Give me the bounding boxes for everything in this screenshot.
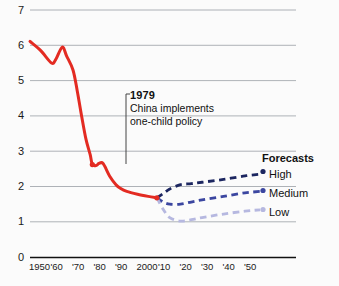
legend-label-medium: Medium [269, 187, 308, 199]
series-line-low [157, 198, 260, 221]
x-tick-2000: 2000 [137, 262, 158, 272]
legend-swatches [260, 169, 265, 212]
series-line-medium [157, 191, 260, 204]
legend-title: Forecasts [262, 152, 314, 164]
x-tick-10: '10 [158, 262, 170, 272]
y-tick-6: 6 [10, 40, 24, 51]
x-tick-20: '20 [180, 262, 192, 272]
legend-label-high: High [269, 168, 292, 180]
y-tick-2: 2 [10, 181, 24, 192]
chart-canvas [0, 0, 339, 286]
1979-marker [90, 162, 95, 167]
x-tick-40: '40 [223, 262, 235, 272]
x-tick-30: '30 [201, 262, 213, 272]
y-tick-4: 4 [10, 110, 24, 121]
x-tick-60: '60 [51, 262, 63, 272]
legend-label-low: Low [269, 206, 289, 218]
x-tick-70: '70 [72, 262, 84, 272]
y-tick-1: 1 [10, 216, 24, 227]
y-tick-7: 7 [10, 5, 24, 16]
data-series-group [30, 41, 260, 221]
annotation-line-1: China implements [130, 102, 214, 115]
x-tick-90: '90 [115, 262, 127, 272]
x-tick-1950: 1950 [29, 262, 50, 272]
fertility-rate-chart: 76543210 1950'60'70'80'902000'10'20'30'4… [0, 0, 339, 286]
y-tick-3: 3 [10, 146, 24, 157]
legend-dot-high [260, 169, 265, 174]
2009-marker [154, 195, 159, 200]
annotation-line-2: one-child policy [130, 115, 214, 128]
x-tick-50: '50 [244, 262, 256, 272]
annotation-one-child-policy: 1979 China implements one-child policy [130, 89, 214, 128]
legend-dot-low [260, 207, 265, 212]
y-tick-5: 5 [10, 75, 24, 86]
y-tick-0: 0 [10, 252, 24, 263]
legend-dot-medium [260, 188, 265, 193]
x-tick-80: '80 [94, 262, 106, 272]
data-markers [90, 162, 160, 200]
annotation-year: 1979 [130, 89, 214, 102]
